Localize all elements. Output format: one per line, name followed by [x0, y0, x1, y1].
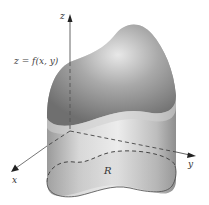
x-axis-arrowhead	[11, 165, 19, 173]
surface-eq-lhs: z	[14, 56, 19, 66]
surface-equation: z = f(x, y)	[14, 56, 58, 66]
z-axis-label: z	[60, 11, 65, 21]
solid-under-surface-figure: z x y R z = f(x, y)	[0, 0, 209, 205]
x-axis	[16, 146, 47, 168]
y-axis-arrowhead	[187, 153, 196, 159]
y-axis-label: y	[188, 159, 193, 169]
z-axis-arrowhead	[68, 14, 73, 22]
surface-eq-rhs: f(x, y)	[32, 56, 58, 66]
surface-top	[47, 24, 176, 125]
region-label: R	[104, 165, 112, 176]
surface-eq-sign: =	[22, 56, 30, 66]
x-axis-label: x	[12, 175, 17, 185]
